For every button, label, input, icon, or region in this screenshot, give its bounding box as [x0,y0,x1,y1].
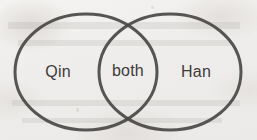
venn-diagram-figure: Qin both Han [0,0,257,140]
venn-label-overlap: both [112,63,144,79]
venn-label-left: Qin [45,64,71,80]
venn-label-right: Han [181,64,211,80]
